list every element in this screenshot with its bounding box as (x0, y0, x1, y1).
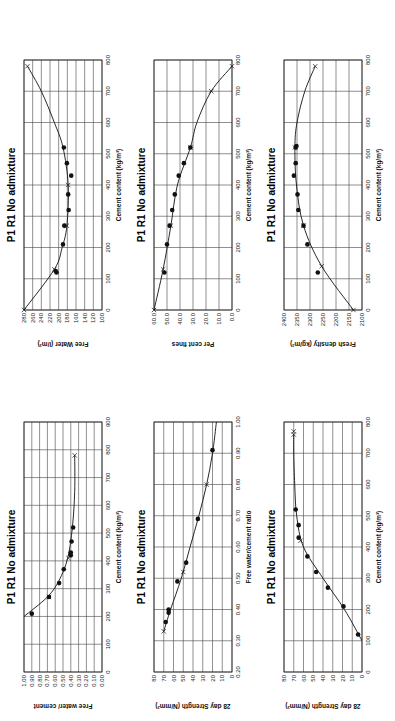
x-tick-label: 100 (105, 639, 111, 650)
data-point (57, 581, 62, 586)
data-point (341, 604, 346, 609)
x-axis-label: Cement content (kg/m³) (375, 511, 383, 584)
y-axis-label: 28 day Strength (N/mm²) (155, 702, 230, 710)
data-point (292, 173, 297, 178)
data-point (61, 242, 66, 247)
x-tick-label: 200 (365, 604, 371, 615)
chart-water-cement-ratio: P1 R1 No admixture0100200300400500600700… (2, 372, 130, 712)
y-tick-label: 0.50 (60, 674, 66, 686)
grid-lines (24, 422, 102, 672)
data-point (165, 242, 170, 247)
data-point (188, 145, 193, 150)
x-tick-label: 800 (105, 54, 111, 65)
x-tick-label: 0.50 (235, 572, 241, 584)
y-tick-label: 160 (73, 312, 79, 323)
y-tick-label: 50 (180, 674, 186, 681)
x-tick-label: 500 (365, 148, 371, 159)
fit-curve (295, 66, 354, 310)
chart-per-cent-fines: P1 R1 No admixture0100200300400500600700… (132, 10, 260, 350)
y-tick-label: 40 (190, 674, 196, 681)
y-tick-label: 0.70 (44, 674, 50, 686)
data-point (182, 161, 187, 166)
chart-title: P1 R1 No admixture (136, 147, 147, 242)
data-point (167, 223, 172, 228)
chart-fresh-density: P1 R1 No admixture0100200300400500600700… (262, 10, 390, 350)
x-tick-label: 500 (105, 527, 111, 538)
y-axis-label: Fresh density (kg/m³) (290, 340, 356, 348)
data-point (66, 192, 71, 197)
data-point (162, 270, 167, 275)
y-tick-label: 280 (21, 312, 27, 323)
y-tick-label: 140 (82, 312, 88, 323)
x-tick-label: 600 (105, 117, 111, 128)
chart-title: P1 R1 No admixture (266, 147, 277, 242)
data-point (69, 550, 74, 555)
data-point (293, 161, 298, 166)
x-tick-label: 100 (365, 635, 371, 646)
y-tick-label: 0.30 (76, 674, 82, 686)
y-tick-label: 0.90 (29, 674, 35, 686)
data-point (316, 270, 321, 275)
data-point (305, 554, 310, 559)
y-tick-label: 20 (210, 674, 216, 681)
y-tick-label: 20 (340, 674, 346, 681)
x-tick-label: 200 (105, 611, 111, 622)
x-tick-label: 200 (105, 242, 111, 253)
x-tick-label: 400 (235, 179, 241, 190)
chart-title: P1 R1 No admixture (136, 509, 147, 604)
x-tick-label: 600 (365, 117, 371, 128)
x-tick-label: 500 (365, 510, 371, 521)
y-tick-label: 0.10 (91, 674, 97, 686)
grid-lines (284, 60, 362, 310)
y-tick-label: 0 (229, 674, 235, 678)
data-point (176, 173, 181, 178)
data-point (47, 595, 52, 600)
y-tick-label: 40.0 (177, 312, 183, 324)
y-tick-label: 10 (349, 674, 355, 681)
data-point (166, 607, 171, 612)
data-point (301, 223, 306, 228)
data-point (326, 585, 331, 590)
x-tick-label: 600 (235, 117, 241, 128)
x-tick-label: 800 (365, 54, 371, 65)
y-tick-label: 2100 (359, 312, 365, 326)
x-tick-label: 400 (105, 179, 111, 190)
y-tick-label: 60 (301, 674, 307, 681)
y-tick-label: 70 (161, 674, 167, 681)
data-point (293, 507, 298, 512)
x-tick-label: 0.30 (235, 634, 241, 646)
data-point (296, 523, 301, 528)
data-point (69, 173, 74, 178)
x-tick-label: 1.00 (235, 416, 241, 428)
y-axis-label: 28 day Strength (N/mm²) (285, 702, 360, 710)
x-tick-label: 600 (105, 500, 111, 511)
x-tick-label: 0 (365, 670, 371, 674)
y-tick-label: 50.0 (164, 312, 170, 324)
data-point (71, 525, 76, 530)
y-tick-label: 20.0 (203, 312, 209, 324)
y-tick-label: 1.00 (21, 674, 27, 686)
y-tick-label: 100 (99, 312, 105, 323)
fit-curve (294, 435, 362, 641)
x-tick-label: 400 (365, 541, 371, 552)
y-tick-label: 2300 (307, 312, 313, 326)
chart-title: P1 R1 No admixture (6, 147, 17, 242)
data-point (196, 517, 201, 522)
y-tick-label: 70 (291, 674, 297, 681)
data-point (173, 192, 178, 197)
x-tick-label: 0.90 (235, 447, 241, 459)
data-point (65, 161, 70, 166)
y-tick-label: 30 (330, 674, 336, 681)
x-axis-label: Cement content (kg/m³) (245, 149, 253, 222)
x-tick-label: 0 (105, 670, 111, 674)
fit-curve (24, 66, 68, 310)
data-point (305, 242, 310, 247)
grid-lines (284, 422, 362, 672)
x-tick-label: 700 (365, 448, 371, 459)
data-point (66, 208, 71, 213)
x-tick-label: 0 (365, 308, 371, 312)
data-point (210, 448, 215, 453)
y-tick-label: 260 (30, 312, 36, 323)
data-point (294, 144, 299, 149)
cross-marker (313, 64, 317, 68)
